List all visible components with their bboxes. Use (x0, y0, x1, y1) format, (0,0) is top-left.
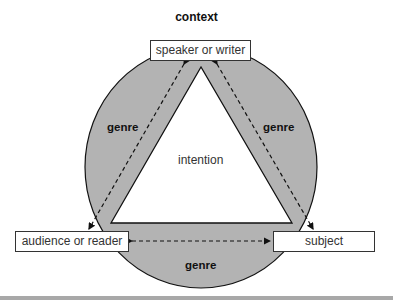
diagram-title: context (0, 10, 393, 24)
node-speaker-or-writer: speaker or writer (150, 40, 251, 61)
genre-label-left: genre (107, 121, 138, 133)
node-audience-or-reader: audience or reader (15, 231, 129, 252)
bottom-divider (0, 296, 393, 300)
genre-label-right: genre (263, 121, 294, 133)
node-subject: subject (273, 231, 375, 252)
genre-label-bottom: genre (185, 259, 216, 271)
rhetorical-triangle-diagram: context speaker or writer audience or re… (0, 0, 393, 304)
intention-label: intention (178, 153, 223, 167)
